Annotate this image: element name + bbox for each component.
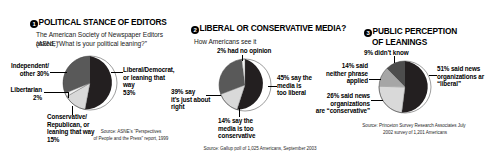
panel-3-source-line2: 2002 survey of 1,201 Americans — [369, 130, 461, 136]
label-didnt-know: 9% didn’t know — [364, 49, 408, 57]
label-neither-phrase-applied: 14% said neither phrase applied — [318, 62, 368, 85]
leader-line-independent — [50, 72, 67, 73]
panel-3-heading-line1: 3PUBLIC PERCEPTION — [364, 26, 457, 37]
leader-line-didnt-know — [394, 56, 395, 63]
panel-1-source-line1: Source: ASNE’s “Perspectives — [92, 129, 170, 135]
leader-line-liberal — [429, 75, 437, 76]
panel-2-heading-text: LIBERAL OR CONSERVATIVE MEDIA? — [200, 23, 347, 33]
panel-2-heading: 2LIBERAL OR CONSERVATIVE MEDIA? — [191, 23, 346, 34]
label-liberal-democrat: Liberal/Democrat, or leaning that way 53… — [123, 66, 171, 96]
panel-3-pie-chart — [378, 60, 432, 114]
label-liberal: 51% said news organizations ar “liberal” — [437, 65, 492, 88]
panel-public-perception-of-leanings: 3PUBLIC PERCEPTION OF LEANINGS 9% didn’t… — [326, 0, 492, 165]
panel-2-subhead-line1: How Americans see it — [194, 37, 256, 46]
leader-line-liberal — [111, 72, 123, 73]
leader-line-libertarian — [44, 92, 68, 93]
leader-line-libertarian-vertical — [68, 92, 69, 98]
panel-1-heading: 1POLITICAL STANCE OF EDITORS — [30, 17, 167, 28]
leader-line-neither — [369, 79, 381, 80]
panel-liberal-or-conservative-media: 2LIBERAL OR CONSERVATIVE MEDIA? How Amer… — [168, 0, 326, 165]
panel-1-subhead-line2: asked, “What is your political leaning?” — [36, 39, 147, 48]
panel-3-source-line1: Source: Princeton Survey Research Associ… — [355, 123, 473, 129]
panel-1-source-line2: of People and the Press” report, 1999 — [88, 136, 174, 142]
label-just-about-right: 39% say it’s just about right — [171, 88, 218, 111]
label-conservative: 26% said news organizations are “conserv… — [314, 92, 370, 115]
leader-line-too-liberal — [268, 86, 277, 87]
label-libertarian: Libertarian 2% — [0, 86, 42, 101]
panel-3-heading-line2: OF LEANINGS — [372, 37, 427, 47]
panel-1-pie-chart — [62, 55, 118, 111]
panel-3-heading-text-1: PUBLIC PERCEPTION — [373, 26, 458, 36]
label-no-opinion: 2% had no opinion — [217, 47, 271, 55]
label-independent-other: Independent/ other 30% — [0, 62, 49, 77]
panel-2-number-badge: 2 — [191, 26, 199, 34]
leader-line-too-conservative — [239, 108, 240, 117]
panel-2-pie-chart — [218, 58, 272, 112]
label-too-conservative: 14% say the media is too conservative — [218, 117, 278, 140]
panel-political-stance-of-editors: 1POLITICAL STANCE OF EDITORS The America… — [0, 0, 168, 165]
leader-line-no-opinion — [242, 55, 243, 61]
leader-line-conservative — [371, 100, 383, 101]
panel-2-source-line1: Source: Gallup poll of 1,025 Americans, … — [194, 146, 326, 152]
panel-1-heading-text: POLITICAL STANCE OF EDITORS — [39, 17, 167, 27]
panel-1-number-badge: 1 — [30, 20, 38, 28]
panel-3-number-badge: 3 — [364, 29, 372, 37]
